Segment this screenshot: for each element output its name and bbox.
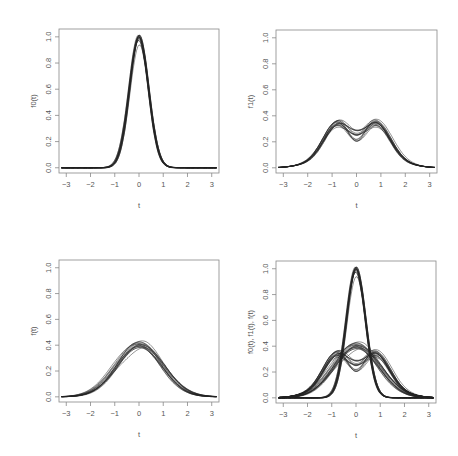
density-curve xyxy=(278,353,433,398)
density-curve xyxy=(278,350,433,397)
density-curve xyxy=(278,268,433,398)
density-curve xyxy=(278,122,434,167)
density-curve xyxy=(61,35,216,168)
density-curve xyxy=(61,346,216,397)
density-curve xyxy=(278,343,433,398)
y-tick-label: 0.2 xyxy=(44,136,53,146)
x-tick-label: −2 xyxy=(303,410,312,419)
density-curve xyxy=(278,122,434,167)
density-curve xyxy=(278,347,433,397)
x-axis-label: t xyxy=(355,431,358,440)
curves xyxy=(278,119,434,167)
density-curve xyxy=(61,36,216,168)
density-curve xyxy=(61,346,216,397)
x-tick-label: 2 xyxy=(403,180,407,189)
density-curve xyxy=(278,347,433,398)
x-tick-label: 3 xyxy=(427,410,431,419)
y-tick-label: 0.8 xyxy=(261,59,270,69)
x-tick-label: 1 xyxy=(161,180,165,189)
x-tick-label: −3 xyxy=(62,409,71,418)
density-curve xyxy=(61,348,216,397)
density-curve xyxy=(61,342,216,397)
density-curve xyxy=(278,353,433,398)
density-curve xyxy=(278,269,433,398)
x-tick-label: 2 xyxy=(402,410,406,419)
density-curve xyxy=(278,352,433,397)
y-axis-label: f1(t) xyxy=(246,94,255,108)
x-axis-label: t xyxy=(138,430,141,439)
x-tick-label: −1 xyxy=(110,180,119,189)
y-tick-label: 0.8 xyxy=(261,289,270,299)
x-tick-label: 2 xyxy=(185,180,189,189)
density-curve xyxy=(278,271,433,398)
y-axis: 0.00.20.40.60.81.0 xyxy=(44,263,59,403)
y-tick-label: 0.2 xyxy=(44,366,53,376)
density-curve xyxy=(278,125,434,168)
density-curve xyxy=(61,37,216,168)
density-curve xyxy=(61,346,216,396)
x-axis: −3−2−10123 xyxy=(279,173,432,189)
x-tick-label: 1 xyxy=(378,410,382,419)
figure: −3−2−10123t0.00.20.40.60.81.0f0(t) −3−2−… xyxy=(0,0,458,456)
density-curve xyxy=(61,37,216,168)
density-curve xyxy=(61,345,216,397)
density-curve xyxy=(278,267,433,398)
plot-box xyxy=(59,29,219,173)
x-axis-label: t xyxy=(138,201,141,210)
density-curve xyxy=(61,343,216,396)
y-axis-label: f(t) xyxy=(29,326,38,336)
density-curve xyxy=(61,45,216,168)
density-curve xyxy=(278,350,433,398)
y-axis-label: f0(t) xyxy=(29,94,38,108)
density-curve xyxy=(278,270,433,398)
y-tick-label: 0.2 xyxy=(261,137,270,147)
x-axis: −3−2−10123 xyxy=(62,173,214,189)
x-tick-label: 2 xyxy=(185,409,189,418)
x-tick-label: −1 xyxy=(327,410,336,419)
y-tick-label: 0.0 xyxy=(261,163,270,173)
x-axis: −3−2−10123 xyxy=(279,403,431,419)
y-tick-label: 0.8 xyxy=(44,288,53,298)
y-tick-label: 0.2 xyxy=(261,367,270,377)
density-curve xyxy=(278,119,434,167)
y-tick-label: 1.0 xyxy=(44,32,53,42)
density-curve xyxy=(61,36,216,168)
density-curve xyxy=(278,122,434,167)
density-curve xyxy=(61,35,216,167)
x-tick-label: 0 xyxy=(137,409,141,418)
panel-f1: −3−2−10123t0.00.20.40.60.81.0f1(t) xyxy=(246,30,437,210)
density-curve xyxy=(61,35,216,168)
y-tick-label: 1.0 xyxy=(261,33,270,43)
density-curve xyxy=(278,277,433,398)
curves xyxy=(61,35,216,168)
density-curve xyxy=(278,269,433,398)
density-curve xyxy=(278,351,433,397)
density-curve xyxy=(278,349,433,398)
y-axis: 0.00.20.40.60.81.0 xyxy=(261,33,276,173)
y-tick-label: 0.6 xyxy=(261,85,270,95)
density-curve xyxy=(61,38,216,168)
density-curve xyxy=(278,121,434,167)
x-tick-label: 1 xyxy=(379,180,383,189)
x-tick-label: 0 xyxy=(354,180,358,189)
x-tick-label: −3 xyxy=(62,180,71,189)
density-curve xyxy=(278,121,434,168)
density-curve xyxy=(61,348,216,397)
x-tick-label: −1 xyxy=(110,409,119,418)
y-axis-label: f0(t), f1(t), f(t) xyxy=(246,309,255,354)
density-curve xyxy=(278,270,433,398)
x-tick-label: 3 xyxy=(210,180,214,189)
x-axis-label: t xyxy=(355,201,358,210)
density-curve xyxy=(61,345,216,397)
plot-box xyxy=(276,30,437,173)
density-curve xyxy=(61,35,216,168)
density-curve xyxy=(278,351,433,398)
y-tick-label: 0.6 xyxy=(44,84,53,94)
curves xyxy=(278,267,433,398)
plot-box xyxy=(59,260,219,402)
x-tick-label: −3 xyxy=(279,410,288,419)
panel-overlay: −3−2−10123t0.00.20.40.60.81.0f0(t), f1(t… xyxy=(246,261,436,440)
density-curve xyxy=(278,347,433,398)
x-tick-label: 1 xyxy=(161,409,165,418)
density-curve xyxy=(278,123,434,168)
